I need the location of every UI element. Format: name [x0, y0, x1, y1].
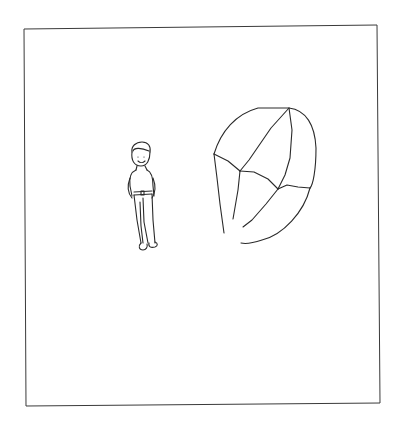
- crystal: [214, 108, 316, 243]
- frame: [24, 25, 380, 406]
- drawing-canvas: [0, 0, 397, 426]
- boy-figure: [128, 142, 157, 250]
